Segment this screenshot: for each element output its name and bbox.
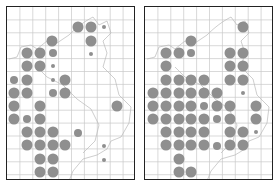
occurrence-dot — [161, 114, 172, 125]
occurrence-dot — [9, 114, 20, 125]
occurrence-dot — [186, 127, 197, 138]
occurrence-dot — [161, 88, 172, 99]
occurrence-dot — [47, 36, 58, 47]
occurrence-dot — [60, 75, 71, 86]
occurrence-dot — [23, 115, 31, 123]
map-panel-left — [6, 6, 135, 180]
dots-right — [148, 22, 262, 178]
occurrence-dot — [48, 127, 59, 138]
occurrence-dot — [251, 101, 262, 112]
occurrence-dot — [60, 140, 71, 151]
occurrence-dot — [174, 48, 185, 59]
occurrence-dot — [238, 48, 249, 59]
occurrence-dot — [161, 61, 172, 72]
occurrence-dot — [35, 61, 46, 72]
occurrence-dot — [49, 89, 57, 97]
occurrence-dot — [49, 49, 57, 57]
occurrence-dot — [199, 127, 210, 138]
occurrence-dot — [187, 49, 195, 57]
occurrence-dot — [60, 88, 71, 99]
occurrence-dot — [174, 114, 185, 125]
occurrence-dot — [225, 75, 236, 86]
occurrence-dot — [174, 127, 185, 138]
occurrence-dot — [213, 115, 221, 123]
occurrence-dot — [212, 88, 223, 99]
occurrence-dot — [35, 167, 46, 178]
occurrence-dot — [238, 22, 249, 33]
occurrence-dot — [225, 140, 236, 151]
occurrence-dot — [35, 127, 46, 138]
occurrence-dot — [35, 48, 46, 59]
occurrence-dot — [212, 101, 223, 112]
occurrence-dot — [199, 88, 210, 99]
map-panel-right — [144, 6, 273, 180]
occurrence-dot — [86, 36, 97, 47]
occurrence-dot — [22, 61, 33, 72]
occurrence-dot — [186, 167, 197, 178]
occurrence-dot — [51, 64, 55, 68]
occurrence-dot — [174, 140, 185, 151]
occurrence-dot — [225, 101, 236, 112]
occurrence-dot — [22, 75, 33, 86]
occurrence-dot — [9, 101, 20, 112]
occurrence-dot — [10, 76, 18, 84]
occurrence-dot — [161, 101, 172, 112]
occurrence-dot — [186, 75, 197, 86]
occurrence-dot — [35, 154, 46, 165]
occurrence-dot — [174, 167, 185, 178]
occurrence-dot — [22, 48, 33, 59]
occurrence-dot — [112, 101, 123, 112]
occurrence-dot — [73, 22, 84, 33]
occurrence-dot — [102, 25, 106, 29]
occurrence-dot — [161, 75, 172, 86]
occurrence-dot — [148, 114, 159, 125]
occurrence-dot — [199, 75, 210, 86]
occurrence-dot — [199, 140, 210, 151]
occurrence-dot — [35, 140, 46, 151]
map-right-svg — [145, 7, 273, 180]
occurrence-dot — [102, 158, 106, 162]
occurrence-dot — [186, 114, 197, 125]
occurrence-dot — [86, 22, 97, 33]
occurrence-dot — [148, 88, 159, 99]
occurrence-dot — [186, 88, 197, 99]
occurrence-dot — [174, 75, 185, 86]
occurrence-dot — [251, 114, 262, 125]
occurrence-dot — [186, 140, 197, 151]
occurrence-dot — [238, 61, 249, 72]
occurrence-dot — [238, 75, 249, 86]
occurrence-dot — [174, 154, 185, 165]
occurrence-dot — [35, 101, 46, 112]
map-left-svg — [7, 7, 135, 180]
occurrence-dot — [238, 127, 249, 138]
occurrence-dot — [161, 127, 172, 138]
occurrence-dot — [22, 88, 33, 99]
occurrence-dot — [225, 61, 236, 72]
occurrence-dot — [148, 101, 159, 112]
occurrence-dot — [89, 52, 93, 56]
occurrence-dot — [213, 142, 221, 150]
occurrence-dot — [22, 140, 33, 151]
dots-left — [9, 22, 123, 178]
occurrence-dot — [174, 101, 185, 112]
occurrence-dot — [225, 114, 236, 125]
occurrence-dot — [51, 78, 55, 82]
region-boundary-right — [147, 17, 269, 180]
occurrence-dot — [174, 88, 185, 99]
occurrence-dot — [225, 127, 236, 138]
occurrence-dot — [9, 88, 20, 99]
occurrence-dot — [199, 114, 210, 125]
occurrence-dot — [254, 130, 258, 134]
occurrence-dot — [74, 129, 82, 137]
occurrence-dot — [186, 101, 197, 112]
occurrence-dot — [238, 140, 249, 151]
occurrence-dot — [48, 167, 59, 178]
occurrence-dot — [35, 114, 46, 125]
occurrence-dot — [161, 48, 172, 59]
occurrence-dot — [161, 140, 172, 151]
occurrence-dot — [241, 91, 245, 95]
occurrence-dot — [186, 36, 197, 47]
occurrence-dot — [200, 102, 208, 110]
occurrence-dot — [225, 48, 236, 59]
occurrence-dot — [22, 127, 33, 138]
